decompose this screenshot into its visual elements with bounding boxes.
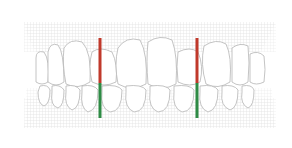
dental-arch-diagram	[0, 0, 292, 148]
